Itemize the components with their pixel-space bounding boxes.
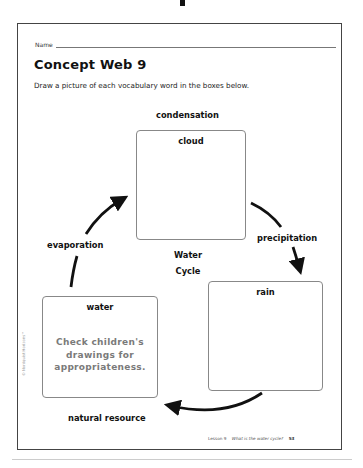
- arrow-natural-resource: [172, 393, 262, 410]
- arrow-evaporation-upper: [86, 200, 121, 234]
- page-footer: Lesson 9 What is the water cycle? 53: [208, 436, 294, 441]
- footer-topic: What is the water cycle?: [232, 436, 284, 441]
- arrow-precipitation-lower: [293, 247, 299, 267]
- cycle-arrows: [0, 0, 363, 468]
- copyright: © Nordquist Horizons™: [21, 331, 26, 376]
- arrow-precipitation-upper: [251, 203, 281, 227]
- arrow-evaporation-lower: [71, 256, 77, 287]
- page-number: 53: [289, 436, 295, 441]
- footer-lesson: Lesson 9: [208, 436, 226, 441]
